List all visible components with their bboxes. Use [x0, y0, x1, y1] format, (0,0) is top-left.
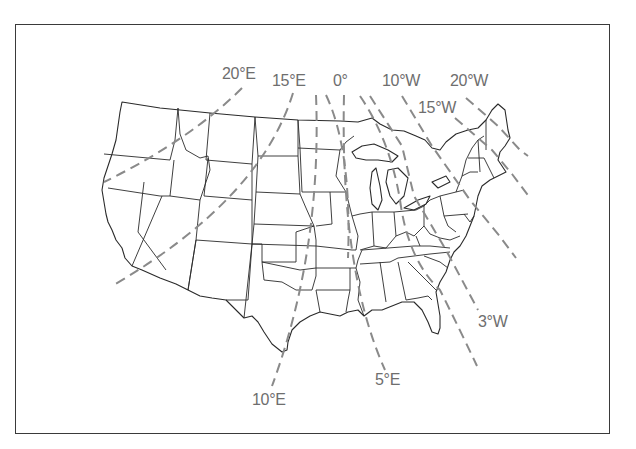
isogonic-line-5e [344, 95, 385, 370]
isogonic-label-5e: 5°E [375, 371, 400, 389]
isogonic-label-20w: 20°W [450, 72, 488, 90]
us-map [0, 0, 636, 449]
isogonic-label-3w: 3°W [478, 313, 508, 331]
isogonic-line-10e [272, 95, 317, 386]
isogonic-line-15w [455, 118, 530, 198]
isogonic-line-20w [466, 98, 528, 156]
isogonic-label-10w: 10°W [382, 72, 420, 90]
isogonic-label-15e: 15°E [272, 72, 306, 90]
isogonic-label-15w: 15°W [418, 99, 456, 117]
isogonic-lines [104, 88, 530, 386]
isogonic-label-10e: 10°E [252, 391, 286, 409]
state-borders [104, 108, 494, 318]
isogonic-label-0: 0° [333, 72, 348, 90]
isogonic-label-20e: 20°E [222, 65, 256, 83]
